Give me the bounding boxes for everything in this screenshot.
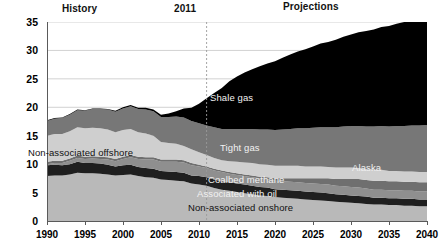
y-axis-tick-25: 25: [26, 74, 38, 84]
series-label-associated-with-oil: Associated with oil: [197, 188, 277, 199]
y-axis-line: [47, 22, 48, 221]
x-axis-tick-2015: 2015: [217, 229, 257, 240]
divider-year-label: 2011: [174, 3, 196, 14]
series-label-shale-gas: Shale gas: [210, 92, 253, 103]
history-period-label: History: [62, 3, 97, 14]
x-tick-mark-2010: [199, 221, 200, 225]
x-tick-mark-2005: [161, 221, 162, 225]
x-axis-tick-2035: 2035: [369, 229, 409, 240]
y-axis: 35302520151050: [0, 0, 47, 250]
x-axis-tick-2020: 2020: [255, 229, 295, 240]
x-axis-tick-2040: 2040: [407, 229, 443, 240]
x-axis-tick-2000: 2000: [103, 229, 143, 240]
x-tick-mark-1990: [47, 221, 48, 225]
x-tick-mark-2035: [389, 221, 390, 225]
series-label-coalbed-methane: Coalbed methane: [208, 174, 285, 185]
series-label-alaska: Alaska: [352, 162, 381, 173]
y-axis-tick-30: 30: [26, 45, 38, 55]
x-axis-tick-2025: 2025: [293, 229, 333, 240]
x-tick-mark-2000: [123, 221, 124, 225]
y-axis-tick-20: 20: [26, 102, 38, 112]
x-axis: 1990199520002005201020152020202520302035…: [0, 223, 437, 245]
x-axis-tick-1995: 1995: [65, 229, 105, 240]
x-tick-mark-2040: [427, 221, 428, 225]
x-axis-tick-2005: 2005: [141, 229, 181, 240]
x-axis-tick-2010: 2010: [179, 229, 219, 240]
y-axis-tick-10: 10: [26, 159, 38, 169]
x-tick-mark-2020: [275, 221, 276, 225]
y-axis-tick-5: 5: [32, 188, 38, 198]
x-tick-mark-2015: [237, 221, 238, 225]
series-label-tight-gas: Tight gas: [220, 142, 260, 153]
x-tick-mark-1995: [85, 221, 86, 225]
x-tick-mark-2030: [351, 221, 352, 225]
series-label-non-associated-offshore: Non-associated offshore: [28, 147, 133, 158]
x-axis-tick-1990: 1990: [27, 229, 67, 240]
projections-period-label: Projections: [283, 1, 339, 12]
y-axis-tick-15: 15: [26, 131, 38, 141]
y-axis-tick-35: 35: [26, 17, 38, 27]
x-axis-tick-2030: 2030: [331, 229, 371, 240]
series-label-non-associated-onshore: Non-associated onshore: [188, 202, 293, 213]
x-tick-mark-2025: [313, 221, 314, 225]
